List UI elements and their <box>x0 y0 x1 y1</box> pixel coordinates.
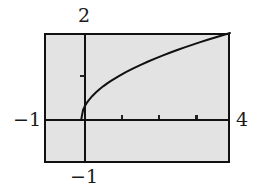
x-axis-tick-1 <box>121 115 123 120</box>
axis-label-y-min: −1 <box>70 167 98 186</box>
x-axis-tick-2 <box>158 115 160 120</box>
plot-area-frame <box>44 33 230 163</box>
x-axis-line <box>44 119 230 122</box>
graph-figure: 2 −1 4 −1 <box>0 0 260 191</box>
axis-label-x-max: 4 <box>236 110 248 129</box>
axis-label-y-max: 2 <box>78 6 90 25</box>
y-axis-line <box>84 33 87 163</box>
axis-label-x-min: −1 <box>13 110 41 129</box>
y-axis-tick-1 <box>80 75 85 77</box>
x-axis-tick-3 <box>195 115 197 120</box>
